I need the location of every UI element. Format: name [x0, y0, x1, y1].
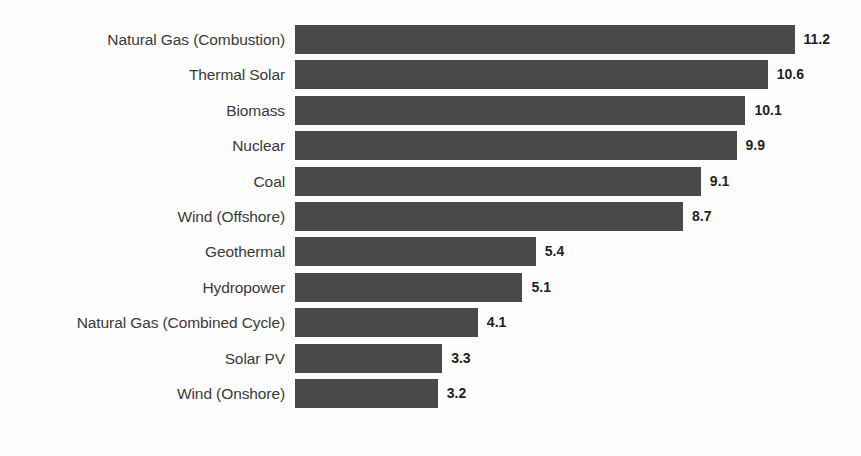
bar	[295, 344, 442, 373]
bar	[295, 167, 701, 196]
bar-chart-figure: Natural Gas (Combustion)11.2Thermal Sola…	[0, 0, 861, 456]
bar-category-label: Solar PV	[0, 344, 285, 373]
bar	[295, 379, 438, 408]
bar-value-label: 3.3	[451, 344, 470, 373]
plot-area: Natural Gas (Combustion)11.2Thermal Sola…	[0, 0, 861, 456]
bar-category-label: Wind (Offshore)	[0, 202, 285, 231]
bar-value-label: 5.1	[531, 273, 550, 302]
bar	[295, 96, 745, 125]
bar-category-label: Wind (Onshore)	[0, 379, 285, 408]
bar-value-label: 10.6	[777, 60, 804, 89]
bar-and-value: 10.1	[295, 96, 782, 125]
bar-and-value: 4.1	[295, 308, 506, 337]
bar-row: Nuclear9.9	[0, 131, 861, 160]
bar-row: Natural Gas (Combined Cycle)4.1	[0, 308, 861, 337]
bar-category-label: Natural Gas (Combined Cycle)	[0, 308, 285, 337]
bar-value-label: 10.1	[754, 96, 781, 125]
bar-category-label: Nuclear	[0, 131, 285, 160]
bar-category-label: Hydropower	[0, 273, 285, 302]
bar-row: Wind (Onshore)3.2	[0, 379, 861, 408]
bar-row: Coal9.1	[0, 167, 861, 196]
bar-row: Solar PV3.3	[0, 344, 861, 373]
bar-category-label: Thermal Solar	[0, 60, 285, 89]
bar-and-value: 5.4	[295, 237, 564, 266]
bar-category-label: Biomass	[0, 96, 285, 125]
bar	[295, 25, 795, 54]
bar-and-value: 9.1	[295, 167, 729, 196]
bar-row: Hydropower5.1	[0, 273, 861, 302]
bar-value-label: 3.2	[447, 379, 466, 408]
bar-value-label: 9.1	[710, 167, 729, 196]
bar-and-value: 3.3	[295, 344, 471, 373]
bar-row: Biomass10.1	[0, 96, 861, 125]
bar	[295, 131, 737, 160]
bar-row: Wind (Offshore)8.7	[0, 202, 861, 231]
bar-and-value: 9.9	[295, 131, 765, 160]
bar-and-value: 11.2	[295, 25, 830, 54]
bar-and-value: 10.6	[295, 60, 804, 89]
bar-row: Geothermal5.4	[0, 237, 861, 266]
bar-category-label: Coal	[0, 167, 285, 196]
bar-value-label: 9.9	[746, 131, 765, 160]
bar-and-value: 3.2	[295, 379, 466, 408]
bar	[295, 237, 536, 266]
bar-row: Natural Gas (Combustion)11.2	[0, 25, 861, 54]
bar-category-label: Natural Gas (Combustion)	[0, 25, 285, 54]
bar-and-value: 5.1	[295, 273, 551, 302]
bar-value-label: 4.1	[487, 308, 506, 337]
bar-value-label: 5.4	[545, 237, 564, 266]
bar	[295, 273, 522, 302]
bar-value-label: 11.2	[804, 25, 830, 54]
bar-row: Thermal Solar10.6	[0, 60, 861, 89]
bar	[295, 60, 768, 89]
bar-value-label: 8.7	[692, 202, 711, 231]
bar-and-value: 8.7	[295, 202, 711, 231]
bar-category-label: Geothermal	[0, 237, 285, 266]
bar	[295, 202, 683, 231]
bar	[295, 308, 478, 337]
